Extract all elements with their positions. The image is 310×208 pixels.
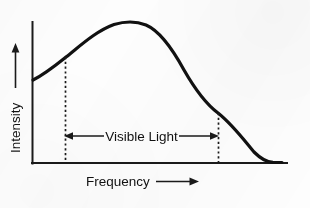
blackbody-spectrum-figure: Visible Light Intensity Frequency xyxy=(0,0,310,208)
x-axis-label: Frequency xyxy=(86,174,150,189)
right-arrow-icon xyxy=(190,178,200,186)
visible-light-label: Visible Light xyxy=(105,129,178,144)
y-axis-label: Intensity xyxy=(8,102,23,153)
up-arrow-icon xyxy=(12,43,20,53)
spectrum-chart-svg: Visible Light Intensity Frequency xyxy=(0,0,310,208)
